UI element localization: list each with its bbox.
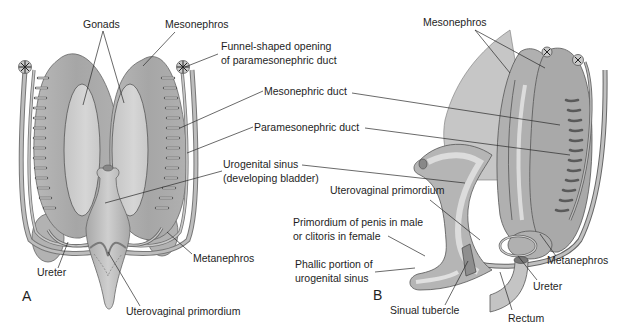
label-mesonephric-duct: Mesonephric duct [264,85,347,98]
label-uterovaginal-a: Uterovaginal primordium [126,305,240,318]
label-primordium-line2: or clitoris in female [293,230,381,243]
label-metanephros-b: Metanephros [547,254,608,267]
label-phallic-line2: urogenital sinus [295,272,369,285]
label-ureter-a: Ureter [37,266,66,279]
panel-label-a: A [22,288,31,304]
label-funnel-line2: of paramesonephric duct [221,54,337,67]
panel-label-b: B [373,287,382,303]
label-phallic-line1: Phallic portion of [295,258,373,271]
funnel-opening-left [19,61,32,74]
funnel-opening-b2 [573,55,584,66]
label-metanephros-a: Metanephros [193,252,254,265]
label-ureter-b: Ureter [533,280,562,293]
panel-b-drawing [410,30,605,312]
label-uterovaginal-b: Uterovaginal primordium [330,184,444,197]
label-mesonephros-b: Mesonephros [423,16,487,29]
embryology-diagram: Gonads Mesonephros Funnel-shaped opening… [0,0,622,335]
label-mesonephros-a: Mesonephros [165,18,229,31]
label-paramesonephric-duct: Paramesonephric duct [254,121,359,134]
label-urogenital-sinus-line2: (developing bladder) [223,172,319,185]
funnel-opening-right [177,61,190,74]
label-sinual-tubercle: Sinual tubercle [390,304,459,317]
label-primordium-line1: Primordium of penis in male [293,216,423,229]
gonad-left [64,84,100,216]
funnel-opening-b1 [542,47,552,57]
label-rectum: Rectum [508,312,544,325]
label-funnel-line1: Funnel-shaped opening [221,40,331,53]
label-gonads: Gonads [83,18,120,31]
label-urogenital-sinus-line1: Urogenital sinus [223,158,298,171]
